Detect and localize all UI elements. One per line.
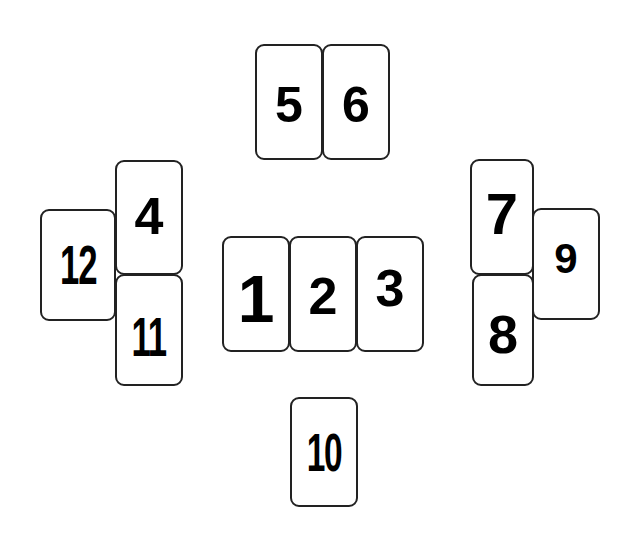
card-label: 3 xyxy=(376,262,405,314)
card-9[interactable]: 9 xyxy=(532,208,600,320)
card-label: 6 xyxy=(342,80,370,130)
card-2[interactable]: 2 xyxy=(289,236,357,352)
card-label: 11 xyxy=(132,309,166,365)
card-5[interactable]: 5 xyxy=(255,44,323,160)
card-11[interactable]: 11 xyxy=(115,274,183,386)
card-7[interactable]: 7 xyxy=(470,159,534,275)
card-label: 10 xyxy=(307,425,342,479)
card-label: 1 xyxy=(238,266,275,332)
card-4[interactable]: 4 xyxy=(115,160,183,275)
card-label: 9 xyxy=(554,238,577,280)
card-3[interactable]: 3 xyxy=(356,236,424,352)
card-label: 7 xyxy=(486,185,518,243)
card-label: 4 xyxy=(135,190,164,242)
card-8[interactable]: 8 xyxy=(472,274,534,386)
card-10[interactable]: 10 xyxy=(290,397,358,507)
card-6[interactable]: 6 xyxy=(322,44,390,160)
card-label: 2 xyxy=(309,270,338,322)
card-label: 12 xyxy=(60,237,96,293)
card-label: 5 xyxy=(275,80,303,130)
card-12[interactable]: 12 xyxy=(40,209,116,321)
card-label: 8 xyxy=(488,307,518,361)
card-1[interactable]: 1 xyxy=(222,236,290,352)
